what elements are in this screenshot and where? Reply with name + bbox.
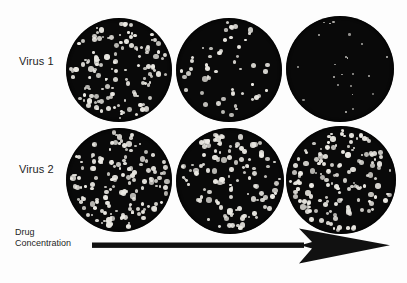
- plaque: [258, 141, 262, 145]
- plaque: [293, 190, 298, 195]
- plaque: [142, 179, 147, 184]
- plaque: [334, 64, 336, 66]
- plaque: [97, 100, 100, 103]
- plaque: [331, 145, 336, 150]
- plaque: [348, 211, 353, 216]
- plaque: [359, 186, 362, 189]
- plaque: [90, 187, 93, 190]
- plaque: [126, 190, 128, 192]
- plaque: [305, 209, 310, 214]
- plaque: [83, 93, 87, 97]
- plaque: [341, 129, 344, 132]
- plaque: [88, 66, 93, 71]
- plaque: [224, 28, 227, 31]
- plaque: [371, 208, 374, 211]
- plaque: [348, 33, 350, 35]
- plaque: [101, 88, 104, 91]
- plaque: [129, 205, 131, 207]
- plaque: [146, 64, 151, 69]
- plaque: [239, 68, 242, 71]
- plaque: [325, 196, 328, 199]
- plaque: [110, 213, 113, 216]
- plaque: [265, 63, 270, 68]
- plaque: [75, 155, 79, 159]
- plaque: [113, 61, 116, 64]
- plaque: [259, 191, 264, 196]
- plaque: [153, 54, 158, 59]
- plaque: [252, 142, 257, 147]
- plaque: [371, 161, 374, 164]
- plaque: [230, 25, 234, 29]
- plaque: [94, 176, 98, 180]
- plaque: [91, 166, 96, 171]
- plaque: [118, 142, 121, 145]
- plaque: [87, 98, 92, 103]
- plaque: [103, 211, 107, 215]
- plaque: [238, 134, 243, 139]
- plaque: [109, 148, 111, 150]
- plaque: [117, 134, 122, 139]
- plaque: [121, 173, 125, 177]
- plaque: [231, 88, 234, 91]
- plaque: [128, 207, 132, 211]
- plaque: [141, 186, 145, 190]
- plaque: [351, 149, 354, 152]
- plaque: [147, 205, 150, 208]
- plaque: [244, 39, 247, 42]
- plaque: [124, 39, 129, 44]
- plaque: [245, 164, 249, 168]
- plaque: [349, 133, 353, 137]
- plaque: [237, 45, 241, 49]
- plaque: [106, 106, 111, 111]
- plaque: [71, 75, 75, 79]
- plaque: [119, 34, 121, 36]
- plaque: [87, 59, 90, 62]
- plaque: [352, 108, 354, 110]
- plaque: [106, 96, 110, 100]
- plaque: [107, 37, 109, 39]
- plaque: [320, 175, 325, 180]
- plaque: [124, 155, 127, 158]
- plaque: [80, 186, 83, 189]
- plaque: [379, 155, 383, 159]
- plaque: [302, 99, 304, 101]
- plaque: [229, 187, 234, 192]
- plaque: [329, 210, 332, 213]
- plaque: [326, 169, 331, 174]
- plaque: [69, 67, 73, 71]
- plaque: [99, 27, 104, 32]
- plaque: [146, 168, 151, 173]
- plaque: [326, 200, 329, 203]
- plaque: [217, 51, 221, 55]
- plaque: [126, 141, 132, 147]
- plate-virus1-medium: [176, 18, 282, 122]
- plaque: [242, 149, 247, 154]
- plaque: [142, 103, 145, 106]
- plaque: [248, 176, 252, 180]
- plaque: [357, 198, 360, 201]
- plaque: [231, 186, 233, 188]
- plaque: [219, 49, 223, 53]
- plaque: [94, 56, 99, 61]
- plaque: [368, 172, 373, 177]
- plaque: [274, 181, 279, 186]
- plaque: [231, 92, 235, 96]
- plaque: [270, 194, 275, 199]
- plaque: [110, 178, 113, 181]
- plaque: [310, 168, 315, 173]
- plaque: [90, 182, 95, 187]
- plaque: [93, 68, 97, 72]
- plaque: [362, 136, 367, 141]
- plaque: [221, 157, 226, 162]
- plaque: [350, 185, 353, 188]
- plaque: [102, 36, 104, 38]
- plaque: [248, 32, 251, 35]
- plaque: [205, 63, 208, 66]
- plaque: [353, 182, 356, 185]
- plaque: [145, 47, 149, 51]
- plaque: [377, 161, 382, 166]
- plaque: [203, 139, 207, 143]
- plaque: [200, 195, 203, 198]
- plaque: [184, 88, 188, 92]
- plaque: [186, 71, 191, 76]
